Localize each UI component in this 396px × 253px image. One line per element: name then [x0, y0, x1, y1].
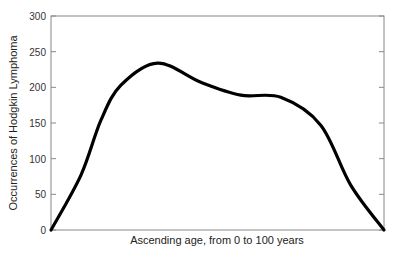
y-tick-label: 150 — [29, 118, 46, 129]
y-tick-label: 300 — [29, 11, 46, 22]
y-tick-label: 200 — [29, 82, 46, 93]
y-tick-label: 50 — [35, 189, 47, 200]
y-axis-label: Occurrences of Hodgkin Lymphoma — [7, 35, 19, 210]
y-tick-label: 100 — [29, 154, 46, 165]
line-chart: 050100150200250300 — [0, 0, 396, 253]
y-tick-label: 250 — [29, 47, 46, 58]
y-axis-ticks: 050100150200250300 — [29, 11, 384, 236]
x-axis-label: Ascending age, from 0 to 100 years — [130, 234, 304, 246]
data-line — [51, 63, 384, 230]
y-tick-label: 0 — [40, 225, 46, 236]
